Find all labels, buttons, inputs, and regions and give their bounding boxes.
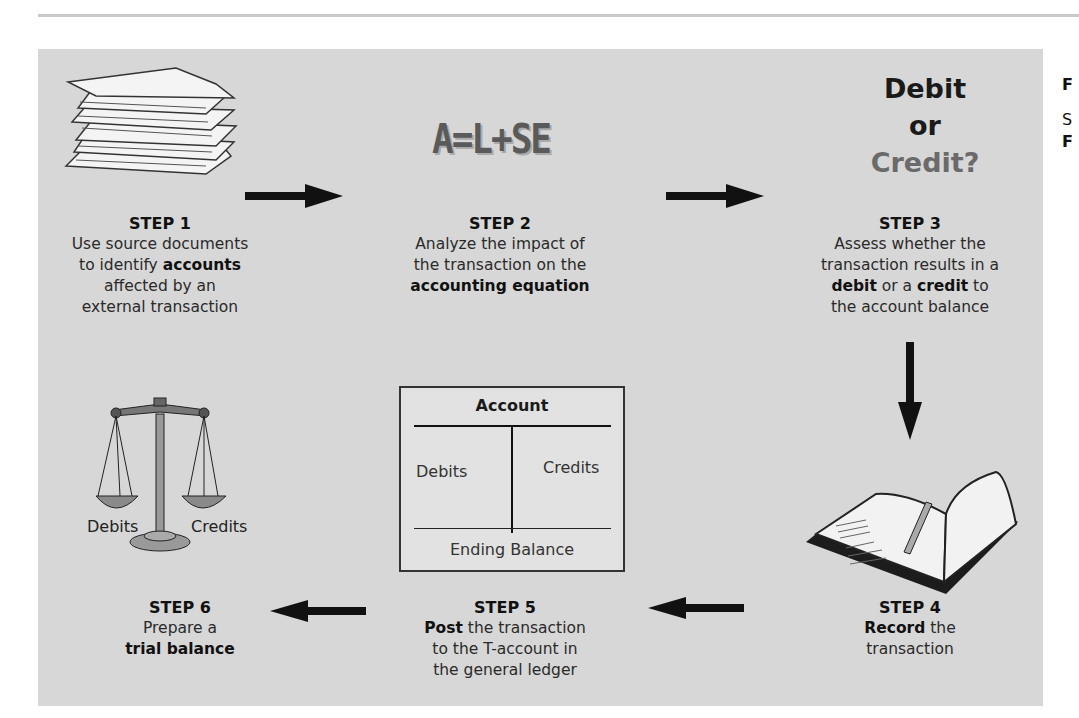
- step-text: the transaction: [463, 619, 586, 637]
- step-title: STEP 1: [60, 213, 260, 234]
- side-fragment: F: [1062, 75, 1073, 94]
- step-5: STEP 5 Post the transaction to the T-acc…: [395, 597, 615, 681]
- side-fragment: S: [1062, 110, 1072, 129]
- t-account-icon: Account Debits Credits Ending Balance: [399, 386, 625, 572]
- journal-book-icon: [796, 464, 1026, 599]
- step-4: STEP 4 Record the transaction: [845, 597, 975, 660]
- debit-or-credit-icon: Debit or Credit?: [860, 70, 990, 181]
- step-keyword: credit: [917, 277, 968, 295]
- step-keyword: accounting equation: [410, 277, 589, 295]
- header-rule: [38, 14, 1079, 17]
- step-6: STEP 6 Prepare a trial balance: [100, 597, 260, 660]
- step-2: STEP 2 Analyze the impact of the transac…: [395, 213, 605, 297]
- arrow-left-icon: [648, 597, 744, 619]
- step-text: Prepare a: [100, 618, 260, 639]
- step-keyword: Record: [864, 619, 925, 637]
- step-text: to: [968, 277, 989, 295]
- step-keyword: trial balance: [125, 640, 235, 658]
- step-text: the account balance: [800, 297, 1020, 318]
- t-account-divider: [511, 426, 513, 533]
- step-3: STEP 3 Assess whether the transaction re…: [800, 213, 1020, 318]
- step-text: transaction results in a: [800, 255, 1020, 276]
- accounting-equation: A=L+SE: [432, 115, 550, 162]
- step-text: or a: [877, 277, 917, 295]
- step-title: STEP 3: [800, 213, 1020, 234]
- side-fragment: F: [1062, 132, 1073, 151]
- step-text: affected by an: [60, 276, 260, 297]
- arrow-down-icon: [898, 342, 922, 442]
- t-account-credits: Credits: [543, 458, 599, 477]
- step-title: STEP 2: [395, 213, 605, 234]
- arrow-right-icon: [666, 184, 766, 208]
- step-title: STEP 6: [100, 597, 260, 618]
- credit-word: Credit?: [860, 144, 990, 181]
- step-text: the transaction on the: [395, 255, 605, 276]
- arrow-left-icon: [270, 600, 366, 622]
- step-text: Analyze the impact of: [395, 234, 605, 255]
- step-keyword: Post: [424, 619, 463, 637]
- t-account-ending-balance: Ending Balance: [401, 540, 623, 559]
- t-account-bottom-rule: [414, 528, 611, 529]
- document-stack-icon: [56, 62, 241, 182]
- arrow-right-icon: [245, 184, 345, 208]
- step-title: STEP 5: [395, 597, 615, 618]
- step-1: STEP 1 Use source documents to identify …: [60, 213, 260, 318]
- t-account-debits: Debits: [416, 462, 467, 481]
- step-keyword: accounts: [163, 256, 241, 274]
- step-keyword: debit: [831, 277, 876, 295]
- step-text: external transaction: [60, 297, 260, 318]
- step-text: Use source documents: [60, 234, 260, 255]
- scale-label-credits: Credits: [191, 517, 247, 536]
- step-text: transaction: [845, 639, 975, 660]
- step-text: the general ledger: [395, 660, 615, 681]
- t-account-header: Account: [401, 396, 623, 415]
- or-word: or: [860, 107, 990, 144]
- scale-label-debits: Debits: [87, 517, 138, 536]
- step-text: to the T-account in: [395, 639, 615, 660]
- debit-word: Debit: [860, 70, 990, 107]
- step-text: Assess whether the: [800, 234, 1020, 255]
- step-text: the: [925, 619, 955, 637]
- step-title: STEP 4: [845, 597, 975, 618]
- step-text: to identify: [79, 256, 158, 274]
